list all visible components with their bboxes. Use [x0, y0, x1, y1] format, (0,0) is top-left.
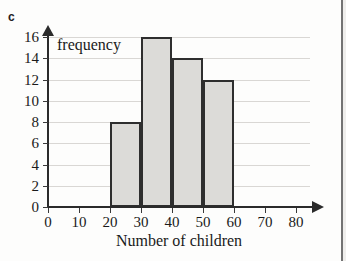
y-axis-tick-label: 16 — [11, 30, 39, 45]
y-axis-arrowhead-icon — [42, 25, 54, 36]
y-axis-tick-label: 8 — [11, 115, 39, 130]
x-axis-tick-label: 30 — [128, 214, 154, 230]
x-axis-tick-label: 50 — [190, 214, 216, 230]
x-axis-arrowhead-icon — [312, 201, 324, 213]
x-axis-tick — [110, 208, 111, 213]
x-axis-tick-label: 60 — [221, 214, 247, 230]
y-axis-tick-label: 10 — [11, 94, 39, 109]
x-axis-tick — [265, 208, 266, 213]
y-axis-tick-label: 12 — [11, 73, 39, 88]
y-axis-tick — [43, 165, 48, 166]
y-axis-tick — [43, 37, 48, 38]
x-axis-tick-label: 0 — [35, 214, 61, 230]
y-axis-tick — [43, 101, 48, 102]
y-axis-tick-label: 2 — [11, 179, 39, 194]
y-axis-title: frequency — [57, 36, 121, 54]
x-axis-tick-label: 70 — [252, 214, 278, 230]
y-axis-tick-label: 0 — [11, 200, 39, 215]
x-axis-tick — [48, 208, 49, 213]
histogram-chart: 0246810121416 01020304050607080 frequenc… — [0, 0, 346, 261]
x-axis-title: Number of children — [48, 232, 310, 250]
y-axis-tick-label: 6 — [11, 136, 39, 151]
x-axis-tick-label: 20 — [97, 214, 123, 230]
y-axis-tick-label: 14 — [11, 51, 39, 66]
x-axis-tick — [172, 208, 173, 213]
x-axis-tick — [79, 208, 80, 213]
y-axis-tick — [43, 143, 48, 144]
histogram-bar — [203, 80, 234, 208]
histogram-bar — [141, 37, 172, 207]
x-axis-tick-label: 10 — [66, 214, 92, 230]
x-axis-tick — [234, 208, 235, 213]
histogram-bar — [172, 58, 203, 207]
x-axis-tick — [296, 208, 297, 213]
x-axis-tick — [203, 208, 204, 213]
x-axis-tick-label: 80 — [283, 214, 309, 230]
x-axis-line — [48, 206, 314, 208]
x-axis-tick-label: 40 — [159, 214, 185, 230]
worksheet-page: c 0246810121416 01020304050607080 freque… — [0, 0, 346, 261]
y-axis-tick — [43, 186, 48, 187]
histogram-bar — [110, 122, 141, 207]
y-axis-tick-label: 4 — [11, 158, 39, 173]
y-axis-tick — [43, 80, 48, 81]
y-axis-tick — [43, 122, 48, 123]
y-axis-line — [47, 34, 49, 208]
y-axis-tick — [43, 58, 48, 59]
x-axis-tick — [141, 208, 142, 213]
